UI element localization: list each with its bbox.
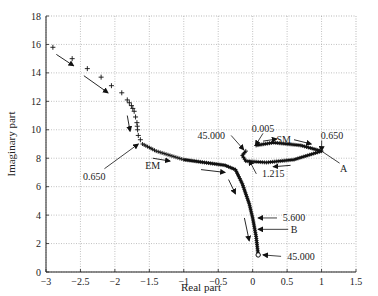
y-tick-label: 4 [36, 210, 41, 221]
annotation-label: B [291, 224, 298, 235]
root-locus-chart: −3−2.5−2−1.5−1−0.500.511.502468101214161… [0, 0, 378, 296]
y-tick-label: 6 [36, 181, 41, 192]
annotation: SM [276, 134, 291, 145]
annotation: EM [145, 160, 160, 171]
y-tick-label: 2 [36, 238, 41, 249]
direction-arrow-icon [263, 139, 277, 141]
x-tick-label: 1 [319, 276, 324, 287]
annotation: B [258, 224, 297, 235]
annotation-label: A [340, 163, 348, 174]
y-tick-label: 16 [31, 39, 41, 50]
direction-arrow-icon [244, 218, 249, 241]
annotation-label: 45.000 [198, 130, 226, 141]
data-series [50, 45, 323, 257]
direction-arrows [56, 54, 311, 240]
series-em [50, 45, 260, 257]
annotation-label: 5.600 [283, 212, 306, 223]
annotation: 45.000 [263, 251, 315, 262]
x-axis-label: Real part [181, 281, 221, 293]
annotation-arrow-icon [104, 144, 138, 169]
y-tick-label: 0 [36, 267, 41, 278]
x-tick-label: −2 [110, 276, 121, 287]
annotation-label: SM [276, 134, 291, 145]
annotation-arrow-icon [231, 135, 244, 149]
annotation: A [322, 151, 348, 174]
x-tick-label: 0.5 [281, 276, 294, 287]
x-tick-label: −1.5 [140, 276, 158, 287]
y-tick-label: 8 [36, 153, 41, 164]
direction-arrow-icon [201, 170, 225, 173]
annotation-arrow-icon [263, 255, 281, 256]
x-tick-label: 1.5 [350, 276, 363, 287]
annotation-label: 0.650 [83, 171, 106, 182]
annotation-label: 0.650 [321, 130, 344, 141]
direction-arrow-icon [273, 165, 290, 166]
annotation: 45.000 [198, 130, 244, 150]
direction-arrow-icon [56, 54, 73, 65]
annotation-label: 45.000 [287, 251, 315, 262]
annotation-label: 0.005 [252, 123, 275, 134]
annotation-leader-line [322, 151, 340, 163]
annotation-label: EM [145, 160, 160, 171]
direction-arrow-icon [127, 116, 130, 132]
direction-arrow-icon [84, 76, 108, 93]
x-tick-label: −3 [41, 276, 52, 287]
y-axis-label: Imaginary part [5, 111, 17, 176]
x-tick-label: 0 [250, 276, 255, 287]
annotation: 0.650 [83, 144, 138, 182]
y-tick-label: 18 [31, 11, 41, 22]
annotation: 5.600 [258, 212, 305, 223]
annotation-label: 1.215 [262, 168, 285, 179]
x-tick-label: −2.5 [71, 276, 89, 287]
annotation: 0.650 [321, 130, 344, 151]
y-tick-label: 14 [31, 67, 41, 78]
y-tick-label: 12 [31, 96, 41, 107]
y-tick-label: 10 [31, 124, 41, 135]
